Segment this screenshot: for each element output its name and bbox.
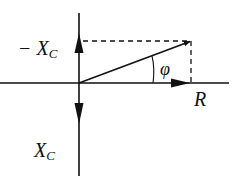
xc-label: XC bbox=[33, 139, 55, 163]
phi-angle-arc bbox=[152, 56, 154, 83]
r-label: R bbox=[193, 88, 206, 110]
phi-label: φ bbox=[160, 59, 170, 79]
resultant-phasor bbox=[79, 42, 190, 84]
phasor-diagram: − XC XC R φ bbox=[0, 0, 247, 183]
xc-arrowhead bbox=[75, 103, 84, 124]
neg-xc-label: − XC bbox=[18, 37, 58, 61]
r-arrowhead bbox=[171, 79, 190, 88]
neg-xc-arrowhead bbox=[75, 33, 84, 53]
